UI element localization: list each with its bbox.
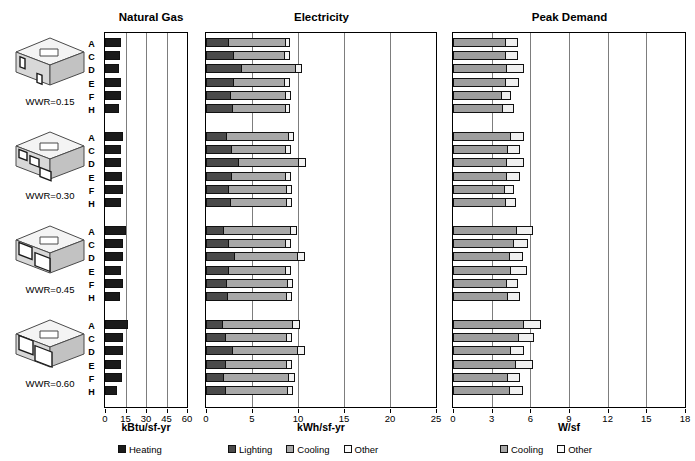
axis-unit-electricity: kWh/sf-yr	[205, 421, 437, 433]
segment-other	[502, 104, 514, 113]
segment-heating	[105, 185, 123, 194]
bar-electricity-WWR=0.60-F	[206, 373, 295, 382]
bar-natural-gas-WWR=0.30-D	[105, 158, 121, 167]
segment-other	[506, 172, 520, 181]
segment-other	[505, 78, 519, 87]
legend-natural-gas: Heating	[118, 442, 172, 456]
bar-peak-demand-WWR=0.30-F	[453, 185, 514, 194]
segment-other	[286, 185, 292, 194]
segment-lighting	[206, 91, 231, 100]
gridline	[344, 33, 345, 407]
segment-lighting	[206, 78, 234, 87]
bar-peak-demand-WWR=0.45-F	[453, 279, 518, 288]
segment-heating	[105, 373, 122, 382]
row-label-E: E	[84, 362, 99, 371]
segment-other	[288, 132, 294, 141]
bar-electricity-WWR=0.45-D	[206, 252, 305, 261]
segment-heating	[105, 279, 123, 288]
legend-label: Cooling	[297, 444, 329, 455]
panel-title-natural-gas: Natural Gas	[100, 11, 202, 23]
bar-electricity-WWR=0.60-E	[206, 360, 292, 369]
segment-lighting	[206, 226, 224, 235]
axis-unit-peak-demand: W/sf	[452, 421, 686, 433]
bar-electricity-WWR=0.45-H	[206, 292, 292, 301]
row-label-C: C	[84, 335, 99, 344]
segment-cooling	[233, 51, 285, 60]
row-label-A: A	[84, 228, 99, 237]
row-label-H: H	[84, 294, 99, 303]
row-label-F: F	[84, 375, 99, 384]
plot-natural-gas	[104, 32, 188, 408]
bar-electricity-WWR=0.45-A	[206, 226, 297, 235]
bar-electricity-WWR=0.15-A	[206, 38, 290, 47]
bar-peak-demand-WWR=0.60-E	[453, 360, 533, 369]
legend-label: Cooling	[511, 444, 543, 455]
wwr-label: WWR=0.45	[4, 284, 96, 295]
segment-cooling	[453, 386, 510, 395]
bar-peak-demand-WWR=0.15-H	[453, 104, 514, 113]
bar-natural-gas-WWR=0.60-A	[105, 320, 128, 329]
row-label-C: C	[84, 241, 99, 250]
segment-other	[285, 145, 291, 154]
row-label-D: D	[84, 254, 99, 263]
segment-cooling	[453, 38, 506, 47]
bar-peak-demand-WWR=0.60-A	[453, 320, 541, 329]
row-label-F: F	[84, 187, 99, 196]
segment-other	[297, 346, 305, 355]
segment-lighting	[206, 360, 226, 369]
segment-other	[286, 360, 292, 369]
segment-lighting	[206, 386, 226, 395]
bar-peak-demand-WWR=0.45-D	[453, 252, 523, 261]
segment-heating	[105, 333, 123, 342]
segment-cooling	[453, 320, 524, 329]
segment-other	[523, 320, 541, 329]
bar-electricity-WWR=0.15-D	[206, 64, 302, 73]
segment-cooling	[228, 266, 286, 275]
segment-heating	[105, 252, 123, 261]
segment-cooling	[232, 104, 286, 113]
segment-lighting	[206, 373, 224, 382]
bar-natural-gas-WWR=0.15-E	[105, 78, 121, 87]
segment-cooling	[453, 132, 511, 141]
wwr-label: WWR=0.60	[4, 378, 96, 389]
bar-electricity-WWR=0.30-C	[206, 145, 291, 154]
bar-natural-gas-WWR=0.30-C	[105, 145, 121, 154]
plot-electricity	[205, 32, 437, 408]
bar-natural-gas-WWR=0.30-A	[105, 132, 123, 141]
segment-lighting	[206, 266, 229, 275]
segment-lighting	[206, 279, 227, 288]
bar-electricity-WWR=0.15-C	[206, 51, 290, 60]
row-label-F: F	[84, 281, 99, 290]
segment-cooling	[231, 172, 286, 181]
gridline	[530, 33, 531, 407]
bar-peak-demand-WWR=0.60-C	[453, 333, 534, 342]
segment-other	[513, 239, 528, 248]
segment-heating	[105, 386, 117, 395]
gridline	[126, 33, 127, 407]
segment-other	[286, 333, 292, 342]
segment-cooling	[223, 373, 288, 382]
segment-other	[292, 320, 299, 329]
building-thumbnail-0.6: WWR=0.60	[4, 314, 96, 408]
segment-cooling	[226, 132, 289, 141]
segment-other	[515, 360, 533, 369]
segment-lighting	[206, 145, 232, 154]
segment-heating	[105, 64, 119, 73]
segment-cooling	[453, 145, 508, 154]
segment-other	[504, 185, 514, 194]
bar-natural-gas-WWR=0.60-D	[105, 346, 123, 355]
segment-cooling	[225, 333, 287, 342]
segment-cooling	[453, 198, 506, 207]
segment-cooling	[228, 239, 286, 248]
segment-other	[285, 172, 291, 181]
axis-unit-natural-gas: kBtu/sf-yr	[104, 421, 188, 433]
bar-peak-demand-WWR=0.30-E	[453, 172, 520, 181]
segment-cooling	[223, 226, 290, 235]
bar-peak-demand-WWR=0.60-F	[453, 373, 520, 382]
legend-label: Other	[568, 444, 592, 455]
segment-other	[506, 158, 524, 167]
legend-swatch-lighting-icon	[228, 445, 236, 453]
bar-natural-gas-WWR=0.15-H	[105, 104, 119, 113]
segment-heating	[105, 292, 120, 301]
row-label-F: F	[84, 93, 99, 102]
